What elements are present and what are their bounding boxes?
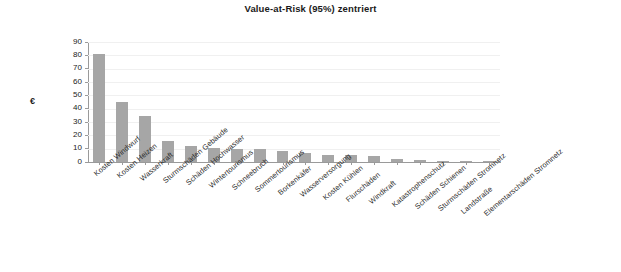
chart-container: Value-at-Risk (95%) zentriert € Millione… [0,0,621,272]
x-axis-labels-group: Kosten WindwurfKosten HeizenWasserkraftS… [0,0,621,272]
